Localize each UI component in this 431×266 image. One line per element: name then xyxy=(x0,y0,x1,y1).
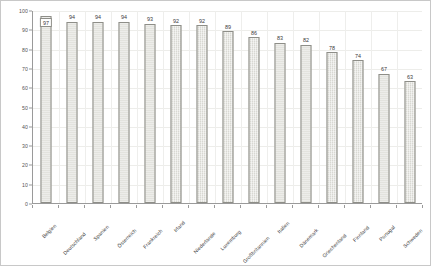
bar-value-label: 92 xyxy=(173,18,179,24)
bar[interactable] xyxy=(301,45,312,203)
x-tick-mark xyxy=(344,205,345,208)
x-tick-label: Luxemburg xyxy=(219,229,242,252)
bar[interactable] xyxy=(275,43,286,203)
y-tick-label: 70 xyxy=(22,66,28,72)
bar-slot: 92 xyxy=(189,11,215,203)
y-tick-label: 30 xyxy=(22,143,28,149)
x-tick-label: Belgien xyxy=(41,223,58,240)
x-tick-mark xyxy=(292,205,293,208)
bar-slot: 83 xyxy=(267,11,293,203)
bar-slot: 97 xyxy=(33,11,59,203)
bar[interactable] xyxy=(405,81,416,203)
y-tick-label: 0 xyxy=(25,201,28,207)
x-tick-label: Niederlande xyxy=(192,230,216,254)
bar[interactable] xyxy=(171,25,182,203)
bar-value-label: 63 xyxy=(407,74,413,80)
x-tick-mark xyxy=(162,205,163,208)
y-axis: 0102030405060708090100 xyxy=(1,11,35,204)
bar-value-label: 82 xyxy=(303,37,309,43)
bar[interactable] xyxy=(145,24,156,203)
bar-slot: 93 xyxy=(137,11,163,203)
bar-value-label: 67 xyxy=(381,66,387,72)
bar-value-label: 74 xyxy=(355,53,361,59)
x-axis-labels: BelgienDeutschlandSpanienÖsterreichFrank… xyxy=(32,205,422,266)
x-tick-mark xyxy=(370,205,371,208)
bar-slot: 94 xyxy=(85,11,111,203)
bar-slot: 78 xyxy=(319,11,345,203)
bar-slot: 67 xyxy=(371,11,397,203)
bar-value-label: 92 xyxy=(199,18,205,24)
x-tick-label: Großbritannien xyxy=(241,235,270,264)
y-tick-label: 100 xyxy=(19,8,28,14)
bar[interactable] xyxy=(353,60,364,203)
x-tick-mark xyxy=(240,205,241,208)
x-tick-mark xyxy=(188,205,189,208)
bar-value-label: 94 xyxy=(69,14,75,20)
bar-value-label: 94 xyxy=(121,14,127,20)
x-tick-mark xyxy=(214,205,215,208)
x-tick-label: Irland xyxy=(173,219,187,233)
x-tick-label: Finnland xyxy=(352,224,371,243)
x-tick-label: Schweden xyxy=(402,227,424,249)
bar-slot: 92 xyxy=(163,11,189,203)
x-tick-mark xyxy=(396,205,397,208)
bar[interactable] xyxy=(119,22,130,203)
plot-area: 979494949392928986838278746763 xyxy=(32,11,422,204)
bar-slot: 82 xyxy=(293,11,319,203)
y-tick-label: 10 xyxy=(22,182,28,188)
y-tick-label: 50 xyxy=(22,105,28,111)
x-tick-mark xyxy=(318,205,319,208)
bar-slot: 94 xyxy=(111,11,137,203)
bar-slot: 74 xyxy=(345,11,371,203)
bar-value-label: 97 xyxy=(40,18,52,27)
y-tick-label: 20 xyxy=(22,162,28,168)
x-tick-mark xyxy=(58,205,59,208)
x-tick-mark xyxy=(84,205,85,208)
bar[interactable] xyxy=(67,22,78,203)
bar-value-label: 94 xyxy=(95,14,101,20)
x-tick-mark xyxy=(32,205,33,208)
bar[interactable] xyxy=(197,25,208,203)
bar-value-label: 78 xyxy=(329,45,335,51)
x-tick-label: Frankreich xyxy=(142,228,164,250)
bar-value-label: 89 xyxy=(225,24,231,30)
bar-slot: 94 xyxy=(59,11,85,203)
x-tick-label: Österreich xyxy=(116,227,138,249)
bar[interactable] xyxy=(41,16,52,203)
y-tick-label: 60 xyxy=(22,85,28,91)
y-tick-label: 80 xyxy=(22,47,28,53)
x-tick-label: Portugal xyxy=(378,224,396,242)
x-tick-label: Dänemark xyxy=(298,227,319,248)
x-tick-mark xyxy=(266,205,267,208)
x-tick-mark xyxy=(136,205,137,208)
x-tick-mark xyxy=(110,205,111,208)
x-tick-label: Griechenland xyxy=(321,232,348,259)
y-tick-label: 90 xyxy=(22,27,28,33)
bar-value-label: 93 xyxy=(147,16,153,22)
bar-value-label: 83 xyxy=(277,35,283,41)
bar-chart: 0102030405060708090100 97949494939292898… xyxy=(0,0,431,266)
x-tick-label: Italien xyxy=(276,220,290,234)
bar[interactable] xyxy=(327,52,338,203)
x-tick-label: Spanien xyxy=(92,224,110,242)
x-tick-label: Deutschland xyxy=(62,231,87,256)
x-tick-mark xyxy=(422,205,423,208)
bar[interactable] xyxy=(223,31,234,203)
y-tick-label: 40 xyxy=(22,124,28,130)
bar-slot: 86 xyxy=(241,11,267,203)
bar[interactable] xyxy=(249,37,260,203)
bar-slot: 89 xyxy=(215,11,241,203)
bar-value-label: 86 xyxy=(251,30,257,36)
bar[interactable] xyxy=(379,74,390,203)
bar-slot: 63 xyxy=(397,11,423,203)
bar[interactable] xyxy=(93,22,104,203)
